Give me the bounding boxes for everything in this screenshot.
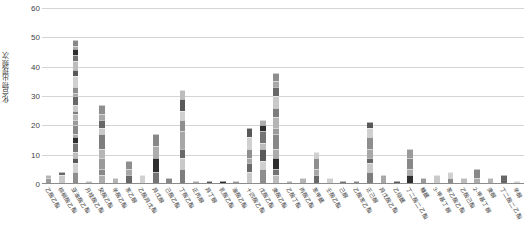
stacked-bar-chart: 化合物出现频次 0102030405060 乙酸乙酯棕榈酸乙酯亚油酸乙酯月桂酸乙… [0, 0, 529, 234]
bar-segment [99, 134, 105, 149]
bar[interactable] [367, 122, 373, 184]
bar-segment [180, 111, 186, 120]
bar-segment [367, 163, 373, 172]
bar-segment [73, 96, 79, 105]
x-axis-tick-labels: 乙酸乙酯棕榈酸乙酯亚油酸乙酯月桂酸乙酯癸酸乙酯辛酸乙酯苯乙醇乙酸异戊酯异戊醇己酸… [42, 186, 524, 234]
bar-segment [180, 149, 186, 158]
bar-segment [474, 169, 480, 178]
y-axis-tick-labels: 0102030405060 [0, 0, 40, 234]
bar-segment [260, 161, 266, 170]
bar-segment [247, 128, 253, 137]
bar-segment [273, 158, 279, 170]
bar-segment [314, 158, 320, 170]
plot-area [42, 8, 524, 184]
x-axis-tick-label: 己醇 [338, 186, 350, 200]
bar-segment [99, 120, 105, 129]
bar[interactable] [73, 40, 79, 184]
bar-segment [273, 149, 279, 158]
bar-segment [367, 149, 373, 158]
bar-segment [367, 137, 373, 149]
bar-segment [73, 163, 79, 172]
x-axis-tick-label: 庚醇 [485, 186, 497, 200]
y-axis-tick-label: 20 [18, 121, 40, 130]
bar-segment [273, 108, 279, 117]
x-axis-line [42, 183, 524, 184]
bar-segment [273, 134, 279, 149]
bar[interactable] [247, 128, 253, 184]
bar-segment [180, 131, 186, 149]
y-axis-tick-label: 40 [18, 62, 40, 71]
bar-segment [367, 128, 373, 137]
bar-segment [99, 105, 105, 114]
bar-segment [153, 158, 159, 173]
bar-segment [180, 120, 186, 132]
bar[interactable] [260, 119, 266, 184]
bar-segment [73, 61, 79, 70]
y-axis-tick-label: 0 [18, 180, 40, 189]
y-axis-tick-label: 50 [18, 33, 40, 42]
bar-segment [273, 117, 279, 129]
bar-segment [260, 149, 266, 161]
bar-segment [273, 73, 279, 82]
bar-segment [99, 158, 105, 170]
bar[interactable] [273, 73, 279, 184]
bar-segment [73, 143, 79, 152]
bar[interactable] [474, 169, 480, 184]
bar-segment [247, 149, 253, 158]
bar-segment [180, 158, 186, 170]
y-axis-tick-label: 60 [18, 4, 40, 13]
bar-segment [180, 169, 186, 184]
bar[interactable] [99, 105, 105, 184]
bar-segment [260, 131, 266, 143]
bar-segment [407, 158, 413, 170]
bar-segment [273, 96, 279, 108]
bar[interactable] [126, 161, 132, 184]
bar-segment [260, 169, 266, 184]
bar[interactable] [314, 152, 320, 184]
bar-segment [273, 87, 279, 96]
y-axis-tick-label: 30 [18, 92, 40, 101]
bar[interactable] [407, 149, 413, 184]
bar[interactable] [153, 134, 159, 184]
bar-segment [247, 137, 253, 149]
bar-segment [180, 90, 186, 99]
bar-segment [73, 125, 79, 134]
bar-segment [247, 163, 253, 172]
bar-segment [153, 134, 159, 146]
x-axis-tick-label: 糠醛 [418, 186, 430, 200]
bar[interactable] [180, 90, 186, 184]
bar-segment [180, 99, 186, 111]
bar-series [42, 8, 524, 184]
y-axis-tick-label: 10 [18, 150, 40, 159]
bar-segment [99, 149, 105, 158]
bar-segment [73, 76, 79, 88]
bar-segment [407, 149, 413, 158]
x-axis-tick-label: 辛醇 [512, 186, 524, 200]
bar-segment [153, 146, 159, 158]
bar-segment [126, 161, 132, 170]
